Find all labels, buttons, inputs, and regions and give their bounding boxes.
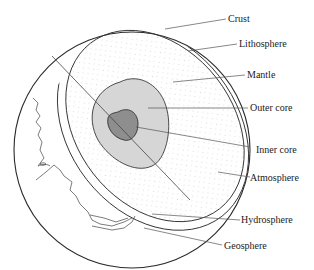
- label-lithosphere: Lithosphere: [239, 38, 287, 50]
- label-atmosphere: Atmosphere: [250, 172, 299, 184]
- label-hydrosphere: Hydrosphere: [241, 214, 293, 226]
- label-crust: Crust: [228, 13, 250, 25]
- label-inner-core: Inner core: [256, 144, 297, 156]
- label-geosphere: Geosphere: [224, 240, 267, 252]
- label-outer-core: Outer core: [250, 102, 292, 114]
- label-mantle: Mantle: [247, 69, 275, 81]
